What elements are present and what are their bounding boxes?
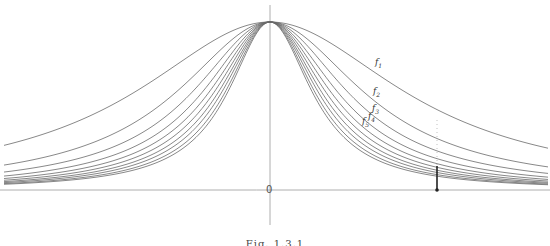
curve-f3 bbox=[4, 22, 548, 173]
curve-f6 bbox=[4, 22, 548, 181]
figure: f1f2f3f4f5 0 Fig. 1.3.1 bbox=[0, 0, 550, 246]
curve-family-plot bbox=[0, 0, 550, 246]
figure-caption: Fig. 1.3.1 bbox=[0, 238, 550, 246]
curve-f8 bbox=[4, 22, 548, 183]
curve-f5 bbox=[4, 22, 548, 179]
curve-f4 bbox=[4, 22, 548, 177]
curve-f10 bbox=[4, 22, 548, 185]
curve-label-f2: f2 bbox=[373, 87, 380, 98]
marker-dot bbox=[435, 188, 439, 192]
curve-f2 bbox=[4, 22, 548, 167]
curve-label-f1: f1 bbox=[375, 58, 382, 69]
curve-f7 bbox=[4, 22, 548, 182]
curve-f1 bbox=[4, 22, 548, 148]
origin-label: 0 bbox=[266, 185, 272, 195]
curve-label-f5: f5 bbox=[362, 117, 369, 128]
